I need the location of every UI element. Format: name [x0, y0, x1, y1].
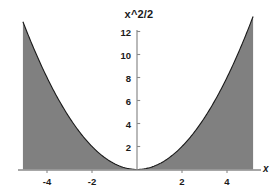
chart-figure: x^2/2 -4-22424681012 x [0, 0, 278, 193]
y-tick-label: 6 [103, 95, 131, 106]
x-axis-label: x [263, 163, 269, 174]
x-tick-label: -2 [88, 176, 96, 187]
y-tick-label: 10 [103, 49, 131, 60]
x-tick-label: 4 [224, 176, 229, 187]
y-tick-label: 4 [103, 118, 131, 129]
plot-canvas [0, 0, 278, 193]
y-tick-label: 2 [103, 141, 131, 152]
y-tick-label: 12 [103, 26, 131, 37]
x-tick-label: -4 [43, 176, 51, 187]
y-tick-label: 8 [103, 72, 131, 83]
x-tick-label: 2 [179, 176, 184, 187]
